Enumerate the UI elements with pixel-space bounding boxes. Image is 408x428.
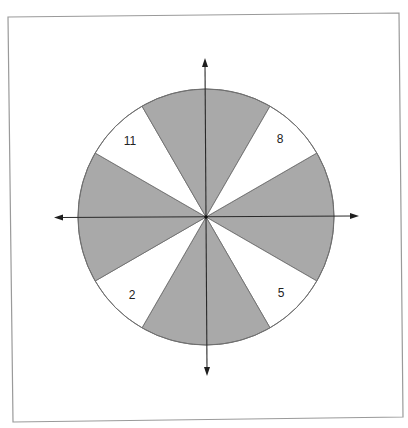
center-point bbox=[204, 215, 208, 219]
sector-label-upper-left: 11 bbox=[124, 134, 137, 148]
spinner-diagram: 11 8 2 5 bbox=[0, 0, 408, 428]
sector-label-lower-left: 2 bbox=[129, 288, 136, 302]
sector-label-upper-right: 8 bbox=[277, 132, 284, 146]
sector-label-lower-right: 5 bbox=[278, 286, 285, 300]
